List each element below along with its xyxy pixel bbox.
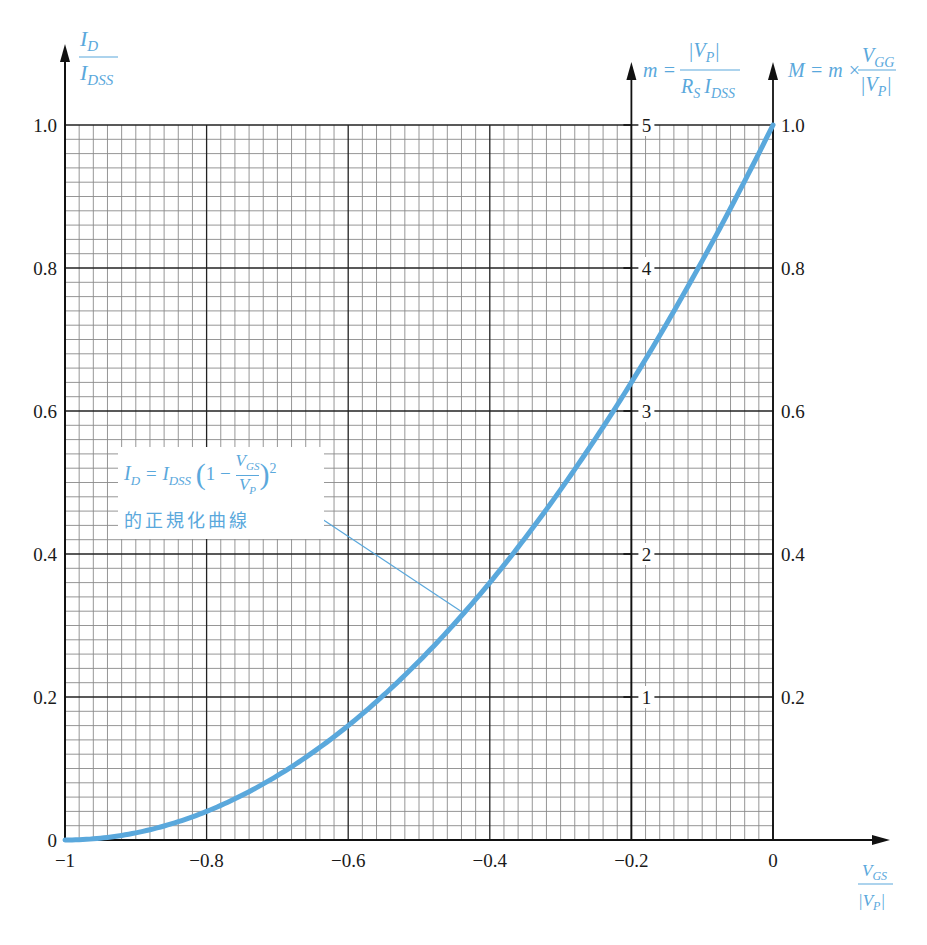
svg-text:|VP|: |VP| bbox=[860, 73, 892, 99]
x-axis-label: VGS |VP| bbox=[858, 861, 893, 913]
svg-text:0.2: 0.2 bbox=[781, 687, 805, 708]
svg-text:5: 5 bbox=[642, 115, 652, 136]
svg-text:VGS: VGS bbox=[862, 861, 887, 883]
svg-text:1.0: 1.0 bbox=[781, 115, 805, 136]
svg-text:M = m ×: M = m × bbox=[787, 59, 861, 81]
svg-text:−1: −1 bbox=[55, 850, 75, 871]
annotation-leader-line bbox=[322, 519, 465, 614]
svg-text:RSIDSS: RSIDSS bbox=[680, 75, 735, 101]
annotation-caption: 的正規化曲線 bbox=[124, 506, 250, 532]
svg-text:−0.6: −0.6 bbox=[331, 850, 365, 871]
svg-text:−0.2: −0.2 bbox=[614, 850, 648, 871]
axes bbox=[60, 44, 890, 845]
svg-text:0.6: 0.6 bbox=[781, 401, 805, 422]
svg-text:0: 0 bbox=[768, 850, 778, 871]
svg-text:3: 3 bbox=[642, 401, 652, 422]
svg-text:0.8: 0.8 bbox=[781, 258, 805, 279]
svg-text:0.4: 0.4 bbox=[781, 544, 805, 565]
y-axis-label-left: ID IDSS bbox=[79, 26, 118, 88]
svg-text:|VP|: |VP| bbox=[688, 39, 720, 65]
svg-text:2: 2 bbox=[642, 544, 652, 565]
svg-text:m =: m = bbox=[643, 59, 676, 81]
svg-text:−0.4: −0.4 bbox=[473, 850, 508, 871]
svg-text:ID: ID bbox=[79, 26, 98, 54]
m-axis-label: m = |VP| RSIDSS bbox=[643, 39, 740, 101]
svg-text:0: 0 bbox=[48, 830, 58, 851]
svg-text:0.6: 0.6 bbox=[33, 401, 57, 422]
M-axis-label: M = m × VGG |VP| bbox=[787, 44, 896, 99]
svg-text:−0.8: −0.8 bbox=[189, 850, 223, 871]
svg-text:0.4: 0.4 bbox=[33, 544, 57, 565]
annotation-formula: ID = IDSS (1 − VGS VP )2 bbox=[124, 452, 276, 500]
svg-text:VGG: VGG bbox=[862, 44, 894, 70]
svg-text:|VP|: |VP| bbox=[858, 891, 885, 913]
svg-text:1: 1 bbox=[642, 687, 652, 708]
svg-text:IDSS: IDSS bbox=[79, 60, 114, 88]
svg-text:0.8: 0.8 bbox=[33, 258, 57, 279]
svg-text:0.2: 0.2 bbox=[33, 687, 57, 708]
svg-text:4: 4 bbox=[642, 258, 652, 279]
svg-text:1.0: 1.0 bbox=[33, 115, 57, 136]
